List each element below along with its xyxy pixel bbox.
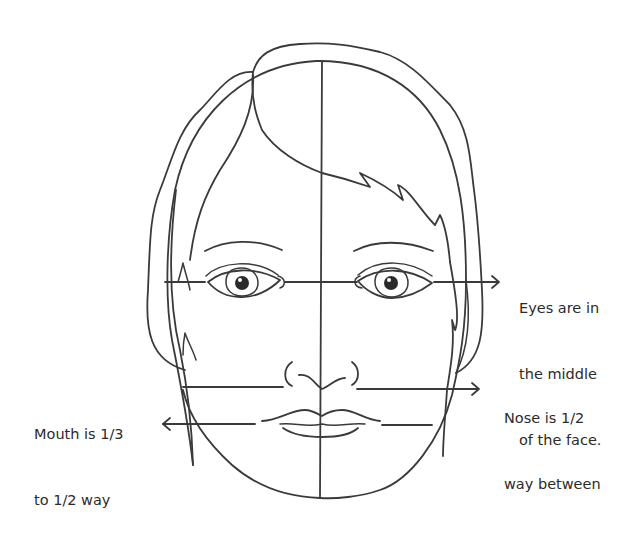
left-hair-tuft-upper bbox=[178, 263, 190, 290]
right-jaw-line bbox=[443, 262, 457, 456]
vertical-center-line bbox=[320, 62, 322, 498]
left-eye bbox=[206, 264, 284, 297]
left-eyebrow bbox=[205, 242, 282, 251]
mouth-annotation-line-1: Mouth is 1/3 bbox=[34, 423, 136, 445]
hair-outline bbox=[147, 43, 482, 373]
nose-annotation-line-1: Nose is 1/2 bbox=[504, 407, 609, 429]
eyes-annotation-line-1: Eyes are in bbox=[519, 297, 601, 319]
mouth-annotation-line-2: to 1/2 way bbox=[34, 489, 136, 511]
left-hair-tuft-lower bbox=[183, 333, 196, 360]
right-eye bbox=[355, 263, 432, 298]
nose-annotation-line-2: way between bbox=[504, 473, 609, 495]
mouth-annotation: Mouth is 1/3 to 1/2 way between nose and… bbox=[34, 379, 136, 538]
right-eyebrow bbox=[354, 243, 433, 251]
nose bbox=[285, 362, 358, 389]
nose-annotation: Nose is 1/2 way between eyes and chin. bbox=[504, 363, 609, 538]
